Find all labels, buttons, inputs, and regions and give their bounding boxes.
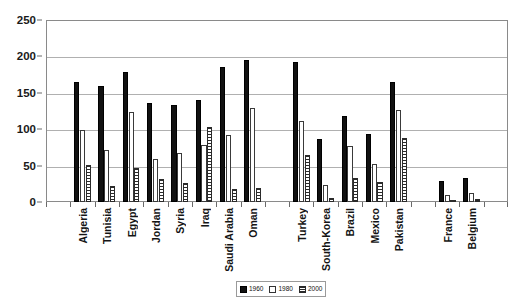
x-tick-mark bbox=[386, 202, 387, 207]
x-tick-label-iraq: Iraq bbox=[199, 208, 211, 227]
y-tick-mark bbox=[37, 202, 42, 203]
y-tick-mark bbox=[37, 165, 42, 166]
y-tick-mark bbox=[37, 20, 42, 21]
x-tick-label-egypt: Egypt bbox=[126, 208, 138, 237]
bar-belgium-1980 bbox=[469, 193, 474, 202]
legend-label-1980: 1980 bbox=[278, 285, 292, 293]
chart-legend: 1960 1980 2000 bbox=[236, 281, 326, 297]
x-tick-mark bbox=[362, 202, 363, 207]
x-tick-label-belgium: Belgium bbox=[466, 208, 478, 249]
y-tick-label: 50 bbox=[23, 160, 36, 172]
x-tick-mark bbox=[95, 202, 96, 207]
x-tick-mark bbox=[338, 202, 339, 207]
hatched-swatch-icon bbox=[299, 286, 306, 293]
x-tick-label-south-korea: South-Korea bbox=[320, 208, 332, 271]
x-tick-mark bbox=[459, 202, 460, 207]
x-tick-mark bbox=[70, 202, 71, 207]
x-tick-label-syria: Syria bbox=[174, 208, 186, 234]
y-tick-label: 150 bbox=[17, 87, 36, 99]
x-tick-label-mexico: Mexico bbox=[369, 208, 381, 244]
y-tick-mark bbox=[37, 129, 42, 130]
x-axis-ticks bbox=[46, 202, 508, 207]
x-tick-label-algeria: Algeria bbox=[77, 208, 89, 244]
x-tick-mark bbox=[216, 202, 217, 207]
x-tick-mark bbox=[484, 202, 485, 207]
x-tick-label-oman: Oman bbox=[247, 208, 259, 238]
x-tick-label-france: France bbox=[442, 208, 454, 242]
legend-label-2000: 2000 bbox=[308, 285, 322, 293]
x-tick-mark bbox=[119, 202, 120, 207]
x-tick-mark bbox=[411, 202, 412, 207]
y-tick-label: 200 bbox=[17, 50, 36, 62]
x-tick-mark bbox=[192, 202, 193, 207]
bar-chart: 050100150200250 AlgeriaTunisiaEgyptJorda… bbox=[0, 0, 527, 304]
y-axis: 050100150200250 bbox=[0, 20, 42, 202]
x-tick-label-tunisia: Tunisia bbox=[101, 208, 113, 244]
white-swatch-icon bbox=[269, 286, 276, 293]
bar-group bbox=[46, 20, 508, 202]
legend-item-2000: 2000 bbox=[299, 285, 322, 293]
y-tick-label: 0 bbox=[30, 196, 36, 208]
x-tick-mark bbox=[289, 202, 290, 207]
x-tick-mark bbox=[46, 202, 47, 207]
x-tick-label-pakistan: Pakistan bbox=[393, 208, 405, 251]
x-tick-mark bbox=[143, 202, 144, 207]
x-tick-label-turkey: Turkey bbox=[296, 208, 308, 242]
x-tick-mark bbox=[168, 202, 169, 207]
x-tick-mark bbox=[435, 202, 436, 207]
bar-belgium-1960 bbox=[463, 178, 468, 202]
y-tick-mark bbox=[37, 56, 42, 57]
legend-item-1980: 1980 bbox=[269, 285, 292, 293]
solid-black-swatch-icon bbox=[240, 286, 247, 293]
x-tick-mark bbox=[265, 202, 266, 207]
legend-item-1960: 1960 bbox=[240, 285, 263, 293]
x-tick-mark bbox=[241, 202, 242, 207]
x-tick-label-jordan: Jordan bbox=[150, 208, 162, 243]
bars-layer bbox=[46, 20, 508, 202]
y-tick-label: 250 bbox=[17, 14, 36, 26]
legend-label-1960: 1960 bbox=[249, 285, 263, 293]
x-tick-mark bbox=[507, 202, 508, 207]
y-tick-label: 100 bbox=[17, 123, 36, 135]
y-tick-mark bbox=[37, 92, 42, 93]
x-tick-label-saudi-arabia: Saudi Arabia bbox=[223, 208, 235, 272]
x-tick-label-brazil: Brazil bbox=[344, 208, 356, 237]
x-tick-mark bbox=[313, 202, 314, 207]
